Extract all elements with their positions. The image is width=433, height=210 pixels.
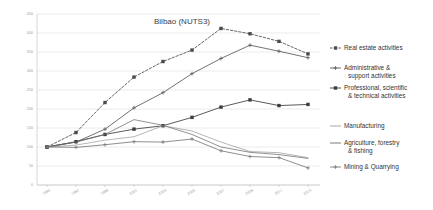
legend-label: Real estate activities	[344, 44, 403, 51]
legend-label-line2: & technical activities	[348, 92, 406, 99]
legend-label: Professional, scientific	[344, 84, 408, 91]
data-point-marker	[277, 40, 280, 43]
y-tick-label: 350	[27, 50, 33, 54]
y-tick-label: 50	[29, 164, 33, 168]
legend-label: Mining & Quarrying	[344, 163, 399, 171]
legend-label: Agriculture, forestry	[344, 139, 400, 147]
data-point-marker	[248, 98, 251, 101]
legend-label-line2: & fishing	[348, 147, 373, 155]
data-point-marker	[132, 127, 135, 130]
data-point-marker	[103, 101, 106, 104]
legend-swatch-marker	[334, 86, 337, 89]
y-tick-label: 150	[27, 126, 33, 130]
data-point-marker	[248, 32, 251, 35]
y-tick-label: 450	[27, 12, 33, 16]
y-tick-label: 200	[27, 107, 33, 111]
y-tick-label: 100	[27, 145, 33, 149]
y-tick-label: 0	[31, 183, 33, 187]
legend-swatch-marker	[334, 46, 337, 49]
legend-label: Manufacturing	[344, 122, 385, 130]
legend-label: Administrative &	[344, 64, 391, 71]
y-tick-label: 400	[27, 31, 33, 35]
data-point-marker	[74, 131, 77, 134]
data-point-marker	[306, 52, 309, 55]
data-point-marker	[277, 104, 280, 107]
y-tick-label: 300	[27, 69, 33, 73]
line-chart: 050100150200250300350400450 199519971999…	[0, 0, 433, 210]
chart-container: 050100150200250300350400450 199519971999…	[0, 0, 433, 210]
data-point-marker	[306, 103, 309, 106]
data-point-marker	[190, 116, 193, 119]
data-point-marker	[190, 48, 193, 51]
y-tick-label: 250	[27, 88, 33, 92]
data-point-marker	[219, 27, 222, 30]
legend-label-line2: support activities	[348, 72, 396, 80]
data-point-marker	[161, 60, 164, 63]
data-point-marker	[132, 75, 135, 78]
chart-title: Bilbao (NUTS3)	[154, 17, 210, 26]
data-point-marker	[219, 105, 222, 108]
